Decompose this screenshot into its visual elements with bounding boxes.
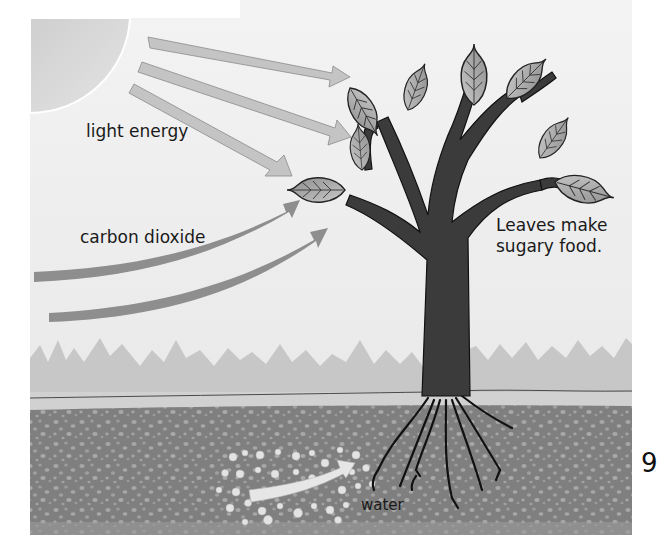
photosynthesis-illustration xyxy=(0,0,671,535)
leaves-caption-line1: Leaves make xyxy=(496,215,608,235)
soil xyxy=(30,405,632,535)
leaves-caption-line2: sugary food. xyxy=(496,236,602,256)
page-number: 9 xyxy=(641,448,658,478)
water-label: water xyxy=(361,495,404,515)
light-energy-label: light energy xyxy=(86,121,188,141)
carbon-dioxide-label: carbon dioxide xyxy=(80,227,206,247)
top-white-strip xyxy=(30,0,240,18)
